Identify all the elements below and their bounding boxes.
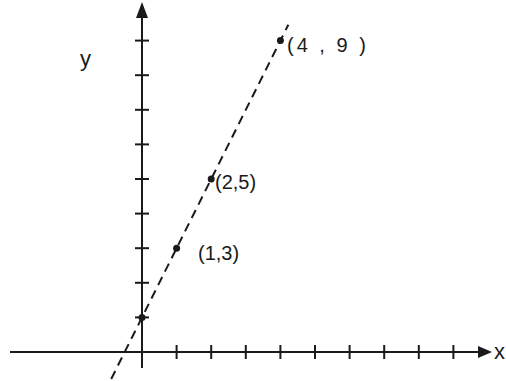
- data-point: [139, 314, 146, 321]
- x-axis-label: x: [494, 339, 505, 365]
- data-point: [277, 37, 284, 44]
- data-points: [139, 37, 284, 321]
- point-label-1-3: (1,3): [198, 242, 239, 265]
- x-axis-arrow-icon: [478, 346, 492, 358]
- point-label-4-9: (4 , 9 ): [287, 34, 369, 57]
- y-axis-label: y: [80, 46, 91, 72]
- data-point: [208, 176, 215, 183]
- dashed-line: [111, 25, 288, 379]
- y-axis-arrow-icon: [136, 2, 148, 18]
- data-point: [173, 245, 180, 252]
- point-label-2-5: (2,5): [215, 171, 256, 194]
